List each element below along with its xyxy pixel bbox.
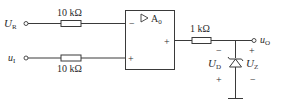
uz-label: UZ	[246, 57, 258, 71]
opamp-output-sign: +	[164, 36, 170, 47]
resistor-r3	[192, 38, 211, 44]
output-path: 1 kΩ uO	[175, 23, 271, 47]
r1-value-label: 10 kΩ	[57, 7, 82, 18]
ur-label: UR	[4, 17, 17, 31]
u1-terminal	[24, 56, 28, 60]
output-terminal	[252, 39, 256, 43]
opamp-inverting-sign: −	[129, 18, 135, 29]
resistor-r1	[61, 21, 81, 27]
input-u1: uI 10 kΩ	[8, 52, 125, 74]
ud-label: UD	[208, 57, 221, 71]
r3-value-label: 1 kΩ	[190, 23, 210, 34]
zener-diode-icon	[230, 59, 242, 67]
ud-top-sign: −	[216, 45, 222, 56]
comparator-circuit-diagram: UR 10 kΩ uI 10 kΩ − + + A0 1 kΩ uO	[0, 0, 282, 110]
opamp-noninverting-sign: +	[128, 53, 134, 64]
u1-label: uI	[8, 52, 16, 65]
r2-value-label: 10 kΩ	[57, 63, 82, 74]
input-ur: UR 10 kΩ	[4, 7, 125, 31]
zener-branch: UD UZ − + + −	[208, 41, 258, 99]
resistor-r2	[61, 55, 81, 61]
opamp-a0: − + + A0	[126, 11, 175, 70]
uz-top-sign: +	[249, 45, 255, 56]
uz-bottom-sign: −	[250, 74, 256, 85]
uo-label: uO	[260, 34, 270, 47]
ur-terminal	[24, 22, 28, 26]
ud-bottom-sign: +	[216, 74, 222, 85]
